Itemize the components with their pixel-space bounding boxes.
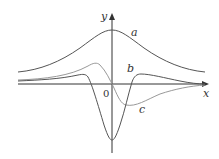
axes bbox=[18, 13, 209, 153]
x-axis-label: x bbox=[203, 87, 210, 100]
function-graph: y x 0 a b c bbox=[0, 0, 219, 159]
curve-c-label: c bbox=[139, 103, 145, 116]
y-axis-label: y bbox=[100, 10, 108, 23]
curve-b-label: b bbox=[127, 62, 134, 75]
curve-a-label: a bbox=[131, 26, 138, 39]
origin-label: 0 bbox=[103, 88, 109, 99]
y-axis-arrow-icon bbox=[109, 13, 115, 20]
